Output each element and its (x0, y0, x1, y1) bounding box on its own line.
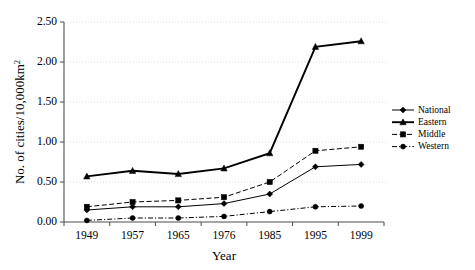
legend-marker-diamond-icon (400, 107, 406, 113)
data-point-marker (130, 199, 135, 204)
x-tick-label: 1949 (75, 229, 98, 241)
data-point-marker (358, 161, 364, 167)
legend-label: Western (418, 141, 449, 151)
y-tick-label: 1.50 (37, 95, 57, 107)
x-tick-label: 1965 (167, 229, 190, 241)
legend-label: Middle (418, 129, 445, 139)
gridlines (64, 22, 388, 182)
data-point-marker (175, 204, 181, 210)
y-axis-title-text: No. of cities/10,000km (12, 64, 27, 184)
legend-marker-circle-icon (401, 144, 406, 149)
y-axis-ticks: 0.000.501.001.502.002.50 (37, 15, 64, 227)
y-tick-label: 0.50 (37, 175, 57, 187)
y-axis-title: No. of cities/10,000km2 (12, 60, 27, 184)
data-point-marker (176, 216, 181, 221)
x-tick-label: 1976 (213, 229, 236, 241)
data-point-marker (267, 209, 272, 214)
series-middle (84, 144, 363, 209)
data-series-group (84, 38, 365, 223)
data-point-marker (312, 164, 318, 170)
y-tick-label: 1.00 (37, 135, 57, 147)
x-tick-label: 1995 (304, 229, 327, 241)
x-axis-title: Year (212, 248, 237, 263)
series-line (87, 41, 361, 176)
y-axis-title-superscript: 2 (12, 60, 22, 64)
data-point-marker (221, 201, 227, 207)
data-point-marker (267, 150, 273, 156)
legend-label: National (418, 105, 451, 115)
legend-item-national[interactable]: National (392, 105, 451, 115)
data-point-marker (130, 216, 135, 221)
data-point-marker (176, 198, 181, 203)
legend-item-western[interactable]: Western (392, 141, 449, 151)
y-tick-label: 2.00 (37, 55, 57, 67)
x-tick-label: 1999 (350, 229, 373, 241)
y-tick-label: 2.50 (37, 15, 57, 27)
y-tick-label: 0.00 (37, 215, 57, 227)
data-point-marker (222, 214, 227, 219)
data-point-marker (84, 204, 89, 209)
line-chart: 0.000.501.001.502.002.50 194919571965197… (0, 0, 475, 270)
chart-container: 0.000.501.001.502.002.50 194919571965197… (0, 0, 475, 270)
data-point-marker (267, 191, 273, 197)
x-tick-label: 1957 (121, 229, 144, 241)
series-eastern (84, 38, 365, 179)
legend-label: Eastern (418, 117, 447, 127)
data-point-marker (313, 204, 318, 209)
data-point-marker (221, 195, 226, 200)
legend-item-eastern[interactable]: Eastern (392, 117, 447, 127)
x-axis-ticks: 1949195719651976198519951999 (64, 222, 384, 241)
data-point-marker (84, 218, 89, 223)
legend: NationalEasternMiddleWestern (392, 105, 451, 152)
x-tick-label: 1985 (258, 229, 281, 241)
legend-item-middle[interactable]: Middle (392, 129, 445, 139)
data-point-marker (359, 144, 364, 149)
data-point-marker (359, 204, 364, 209)
legend-marker-square-icon (400, 132, 405, 137)
data-point-marker (267, 179, 272, 184)
svg-text:No. of cities/10,000km2: No. of cities/10,000km2 (12, 60, 27, 184)
data-point-marker (313, 148, 318, 153)
